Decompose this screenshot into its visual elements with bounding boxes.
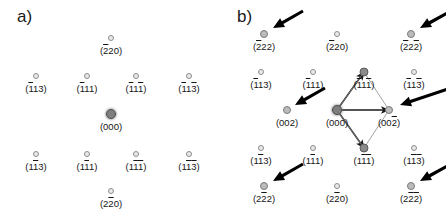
arrow-2bar22bar [420, 10, 446, 28]
spot-label-002bar: (002) [378, 117, 400, 128]
spot-label-22bar2bar: (222) [400, 193, 422, 204]
spot-label-11bar3bar: (113) [178, 161, 200, 172]
arrow-2bar22 [273, 10, 304, 28]
diffraction-spot-icon [411, 69, 417, 75]
diffraction-spot-icon [186, 73, 192, 79]
spot-label-000: (000) [326, 117, 348, 128]
diffraction-spot-icon [360, 144, 369, 153]
diffraction-spot-icon [411, 145, 417, 151]
diffraction-spot-icon [360, 68, 369, 77]
edge-000-to-11bar1bar-thin [337, 110, 364, 148]
diffraction-spot-icon [385, 106, 393, 114]
spot-label-11bar3: (113) [250, 155, 272, 166]
spot-label-11bar1bar: (111) [126, 161, 147, 172]
spot-label-11bar1: (111) [77, 161, 98, 172]
edge-000-to-1bar11bar-thin [337, 72, 364, 110]
diffraction-spot-icon [186, 151, 192, 157]
diffraction-spot-icon [260, 182, 268, 190]
spot-label-1bar11bar: (111) [126, 83, 147, 94]
diffraction-spot-icon [283, 106, 291, 114]
spot-label-22bar0: (220) [100, 198, 122, 209]
diffraction-spot-icon [108, 35, 114, 41]
panel-a: a) (220)(113)(111)(111)(113)(000)(113)(1… [0, 0, 223, 213]
diffraction-spot-icon [407, 30, 415, 38]
diffraction-spot-icon [407, 182, 415, 190]
spot-label-1bar11: (111) [303, 79, 324, 90]
spot-label-22bar2: (222) [253, 193, 275, 204]
diffraction-figure: a) (220)(113)(111)(111)(113)(000)(113)(1… [0, 0, 446, 213]
spot-label-11bar3bar: (113) [403, 155, 425, 166]
edge-1bar11bar-to-002bar [364, 72, 389, 110]
spot-label-002: (002) [276, 117, 298, 128]
edge-002bar-to-11bar1bar [364, 110, 389, 148]
arrow-22bar2 [273, 163, 304, 181]
diffraction-spot-icon [106, 109, 116, 119]
diffraction-spot-icon [334, 31, 340, 37]
spot-label-1bar11: (111) [77, 83, 98, 94]
diffraction-spot-icon [33, 151, 39, 157]
spot-label-1bar13: (113) [250, 79, 272, 90]
spot-label-2bar20: (220) [326, 41, 348, 52]
diffraction-spot-icon [310, 69, 316, 75]
spot-label-1bar13bar: (113) [403, 79, 425, 90]
diffraction-spot-icon [332, 105, 342, 115]
spot-label-1bar13: (113) [25, 83, 47, 94]
diffraction-spot-icon [258, 145, 264, 151]
diffraction-spot-icon [258, 69, 264, 75]
spot-label-11bar3: (113) [25, 161, 47, 172]
panel-a-vector-overlay [0, 0, 223, 213]
spot-label-2bar22: (222) [253, 41, 275, 52]
diffraction-spot-icon [33, 73, 39, 79]
spot-label-11bar1bar: (111) [354, 155, 375, 166]
diffraction-spot-icon [84, 151, 90, 157]
diffraction-spot-icon [133, 73, 139, 79]
spot-label-1bar13bar: (113) [178, 83, 200, 94]
spot-label-1bar11bar: (111) [354, 79, 375, 90]
diffraction-spot-icon [334, 183, 340, 189]
spot-label-2bar22bar: (222) [400, 41, 422, 52]
diffraction-spot-icon [310, 145, 316, 151]
spot-label-2bar20: (220) [100, 45, 122, 56]
panel-b: b) (222)(220)(222)(113)(111)(111)(113)(0… [223, 0, 446, 213]
spot-label-000: (000) [100, 121, 122, 132]
diffraction-spot-icon [133, 151, 139, 157]
diffraction-spot-icon [108, 188, 114, 194]
spot-label-11bar1: (111) [303, 155, 324, 166]
diffraction-spot-icon [260, 30, 268, 38]
spot-label-22bar0: (220) [326, 193, 348, 204]
diffraction-spot-icon [84, 73, 90, 79]
